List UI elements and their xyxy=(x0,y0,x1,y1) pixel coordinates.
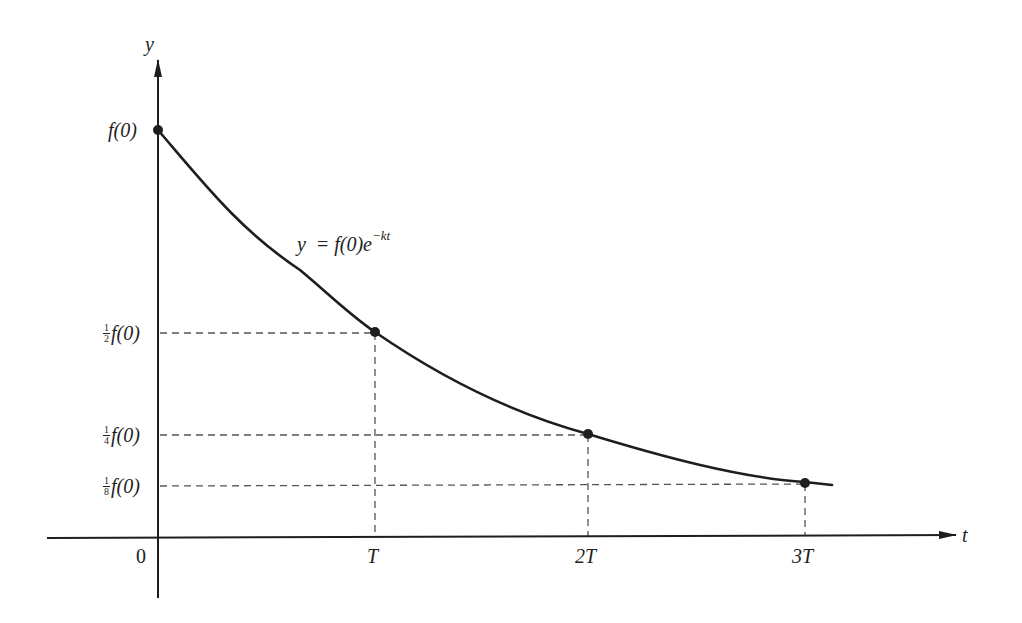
point-3T xyxy=(800,478,810,488)
equation-base: f(0)e xyxy=(334,233,372,255)
y-axis-label: y xyxy=(145,34,154,54)
equation-equals: = xyxy=(317,233,328,255)
y-tick-text: f(0) xyxy=(108,119,137,141)
x-axis xyxy=(47,535,956,538)
decay-diagram xyxy=(0,0,1022,623)
equation-exponent: −kt xyxy=(372,228,390,243)
y-tick-quarter: 14f(0) xyxy=(103,425,140,448)
point-2T xyxy=(583,429,593,439)
point-T xyxy=(370,327,380,337)
point-t0 xyxy=(153,125,163,135)
y-tick-eighth: 18f(0) xyxy=(103,476,140,499)
fraction-half: 12 xyxy=(103,323,110,344)
fraction-quarter: 14 xyxy=(103,425,110,446)
x-tick-T: T xyxy=(367,546,378,566)
x-tick-3T: 3T xyxy=(792,546,813,566)
y-tick-text: f(0) xyxy=(111,475,140,497)
curve-equation: y =f(0)e−kt xyxy=(297,234,390,254)
y-tick-half: 12f(0) xyxy=(103,323,140,346)
x-axis-label: t xyxy=(962,525,968,545)
marked-points xyxy=(153,125,810,488)
fraction-eighth: 18 xyxy=(103,476,110,497)
equation-lhs: y xyxy=(297,233,306,255)
y-tick-text: f(0) xyxy=(111,322,140,344)
decay-curve xyxy=(158,130,832,485)
y-tick-f0: f(0) xyxy=(108,120,137,140)
guide-lines xyxy=(160,333,805,536)
origin-label: 0 xyxy=(136,546,146,566)
x-tick-2T: 2T xyxy=(575,546,596,566)
y-tick-text: f(0) xyxy=(111,424,140,446)
